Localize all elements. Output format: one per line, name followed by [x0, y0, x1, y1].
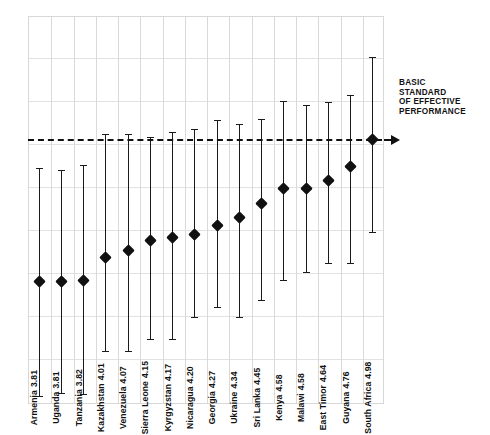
category-name: South Africa — [363, 382, 373, 434]
category-value: 4.64 — [319, 365, 329, 382]
category-name: Sierra Leone — [141, 381, 151, 434]
category-value: 4.17 — [163, 364, 173, 381]
data-column[interactable]: Venezuela4.07 — [117, 16, 139, 404]
data-point-marker[interactable] — [233, 211, 246, 224]
error-bar-cap-lower — [191, 317, 198, 318]
data-column[interactable]: East Timor4.64 — [317, 16, 339, 404]
data-point-marker[interactable] — [122, 244, 135, 257]
data-point-marker[interactable] — [55, 275, 68, 288]
category-name: Malawi — [297, 394, 307, 423]
error-bar-cap-lower — [258, 300, 265, 301]
data-column[interactable]: Guyana4.76 — [340, 16, 362, 404]
category-value: 4.58 — [297, 374, 307, 391]
data-column[interactable]: Sri Lanka4.45 — [251, 16, 273, 404]
annotation-line-4: PERFORMANCE — [399, 107, 487, 117]
category-value: 4.76 — [341, 372, 351, 389]
error-bar-line — [217, 120, 218, 307]
category-label: East Timor4.64 — [320, 365, 329, 430]
error-bar-cap-lower — [214, 307, 221, 308]
category-value: 3.81 — [52, 372, 62, 389]
data-column[interactable]: Malawi4.58 — [295, 16, 317, 404]
data-point-marker[interactable] — [211, 219, 224, 232]
error-bar-cap-upper — [214, 120, 221, 121]
category-value: 4.34 — [230, 372, 240, 389]
category-label: Ukraine4.34 — [231, 372, 240, 424]
error-bar-line — [105, 134, 106, 351]
category-value: 3.82 — [74, 369, 84, 386]
error-bar-cap-lower — [147, 339, 154, 340]
data-series-layer: Armenia3.81Uganda3.81Tanzania3.82Kazakhs… — [28, 16, 384, 404]
reference-annotation: BASIC STANDARD OF EFFECTIVE PERFORMANCE — [399, 78, 487, 116]
error-bar-line — [350, 95, 351, 264]
category-value: 4.27 — [208, 371, 218, 388]
data-point-marker[interactable] — [189, 228, 202, 241]
category-label: South Africa4.98 — [364, 362, 373, 434]
data-column[interactable]: South Africa4.98 — [362, 16, 384, 404]
category-name: Nicaragua — [185, 387, 195, 429]
error-bar-cap-lower — [125, 351, 132, 352]
category-value: 3.81 — [30, 370, 40, 387]
data-point-marker[interactable] — [300, 182, 313, 195]
category-value: 4.07 — [119, 367, 129, 384]
category-label: Kazakhstan4.01 — [97, 364, 106, 433]
error-bar-line — [128, 134, 129, 351]
category-name: Tanzania — [74, 390, 84, 427]
error-bar-cap-lower — [303, 272, 310, 273]
category-label: Georgia4.27 — [209, 371, 218, 424]
data-column[interactable]: Kyrgyzstan4.17 — [162, 16, 184, 404]
error-bar-cap-upper — [191, 129, 198, 130]
data-column[interactable]: Sierra Leone4.15 — [139, 16, 161, 404]
category-label: Armenia3.81 — [31, 370, 40, 425]
data-point-marker[interactable] — [144, 234, 157, 247]
category-name: Kazakhstan — [96, 384, 106, 433]
error-bar-cap-upper — [169, 132, 176, 133]
category-name: Georgia — [208, 391, 218, 424]
data-point-marker[interactable] — [255, 198, 268, 211]
error-bar-cap-upper — [258, 119, 265, 120]
data-point-marker[interactable] — [278, 182, 291, 195]
category-value: 4.58 — [274, 375, 284, 392]
reference-arrow-icon — [391, 135, 400, 145]
data-column[interactable]: Tanzania3.82 — [73, 16, 95, 404]
data-point-marker[interactable] — [100, 251, 113, 264]
annotation-line-3: OF EFFECTIVE — [399, 97, 487, 107]
error-bar-cap-upper — [125, 134, 132, 135]
category-name: Uganda — [52, 392, 62, 424]
data-column[interactable]: Georgia4.27 — [206, 16, 228, 404]
error-bar-cap-upper — [347, 95, 354, 96]
data-column[interactable]: Kazakhstan4.01 — [95, 16, 117, 404]
data-point-marker[interactable] — [344, 160, 357, 173]
category-name: Armenia — [30, 391, 40, 426]
category-value: 4.98 — [363, 362, 373, 379]
error-bar-cap-lower — [347, 263, 354, 264]
error-bar-cap-lower — [236, 317, 243, 318]
data-column[interactable]: Armenia3.81 — [28, 16, 50, 404]
data-column[interactable]: Nicaragua4.20 — [184, 16, 206, 404]
category-name: East Timor — [319, 385, 329, 430]
error-bar-cap-upper — [325, 102, 332, 103]
data-point-marker[interactable] — [166, 232, 179, 245]
data-column[interactable]: Uganda3.81 — [50, 16, 72, 404]
data-column[interactable]: Ukraine4.34 — [228, 16, 250, 404]
category-label: Sri Lanka4.45 — [253, 368, 262, 428]
category-name: Ukraine — [230, 392, 240, 424]
error-bar-line — [194, 129, 195, 317]
category-name: Guyana — [341, 392, 351, 424]
category-value: 4.01 — [96, 364, 106, 381]
error-bar-cap-lower — [325, 263, 332, 264]
reference-line — [28, 139, 382, 141]
category-value: 4.20 — [185, 367, 195, 384]
error-bar-cap-upper — [236, 124, 243, 125]
data-point-marker[interactable] — [33, 275, 46, 288]
category-label: Tanzania3.82 — [75, 369, 84, 426]
category-label: Venezuela4.07 — [120, 367, 129, 430]
error-bar-cap-upper — [102, 134, 109, 135]
category-name: Kyrgyzstan — [163, 384, 173, 431]
data-point-marker[interactable] — [77, 274, 90, 287]
data-column[interactable]: Kenya4.58 — [273, 16, 295, 404]
category-label: Nicaragua4.20 — [186, 367, 195, 430]
annotation-line-2: STANDARD — [399, 88, 487, 98]
error-bar-cap-lower — [369, 232, 376, 233]
data-point-marker[interactable] — [322, 175, 335, 188]
